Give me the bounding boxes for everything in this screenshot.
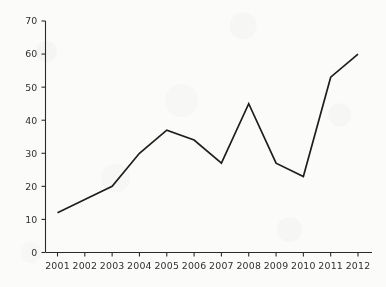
x-tick-label: 2002 — [72, 260, 97, 271]
x-tick-label: 2012 — [346, 260, 371, 271]
y-tick-label: 0 — [31, 247, 37, 258]
y-tick-label: 40 — [25, 115, 37, 126]
x-tick-label: 2010 — [291, 260, 316, 271]
x-tick-label: 2003 — [100, 260, 125, 271]
plot-background — [0, 0, 386, 287]
x-tick-label: 2008 — [236, 260, 261, 271]
y-tick-label: 50 — [25, 82, 37, 93]
y-tick-label: 10 — [25, 214, 37, 225]
x-tick-label: 2006 — [182, 260, 207, 271]
y-tick-label: 70 — [25, 15, 37, 26]
x-tick-label: 2009 — [264, 260, 289, 271]
y-tick-label: 30 — [25, 148, 37, 159]
y-tick-label: 20 — [25, 181, 37, 192]
x-tick-label: 2004 — [127, 260, 152, 271]
x-tick-label: 2011 — [318, 260, 343, 271]
y-tick-label: 60 — [25, 48, 37, 59]
chart-canvas: 010203040506070 200120022003200420052006… — [0, 0, 386, 287]
x-tick-label: 2005 — [154, 260, 179, 271]
line-chart-figure: 010203040506070 200120022003200420052006… — [0, 0, 386, 287]
x-tick-label: 2007 — [209, 260, 234, 271]
x-tick-label: 2001 — [45, 260, 70, 271]
